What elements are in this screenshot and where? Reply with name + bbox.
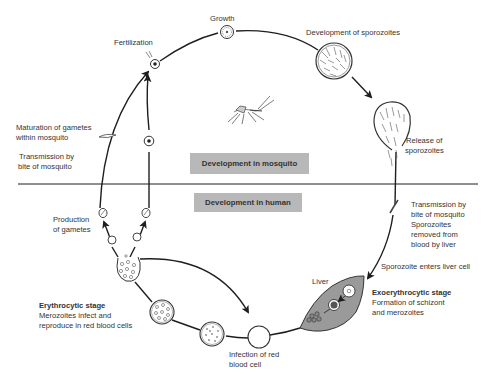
sporozoite-release-icon <box>374 102 410 166</box>
label-transmission-right-line1: Transmission by <box>411 200 466 209</box>
label-production-line2: of gametes <box>53 225 91 234</box>
label-ery-desc-line2: reproduce in red blood cells <box>39 321 132 330</box>
label-release-of-sporozoites-line2: sporozoites <box>405 146 444 155</box>
arrow-maturation-to-fertilization <box>100 72 148 208</box>
label-transmission-right-line5: blood by liver <box>411 240 456 249</box>
gamete-dot-icon <box>144 136 154 146</box>
arrow-gamete-left <box>104 222 110 238</box>
red-blood-cell-icon <box>248 326 270 348</box>
arrow-development-to-release <box>352 77 371 97</box>
ruptured-rbc-icon <box>117 255 140 281</box>
trophozoite-rbc-icon <box>200 322 224 346</box>
label-development-of-sporozoites: Development of sporozoites <box>306 28 400 37</box>
line-rbc-to-liver <box>270 328 300 335</box>
gamete-cell-right-icon <box>133 233 141 241</box>
gamete-cell-left-icon <box>108 236 116 244</box>
label-ery-desc-line1: Merozoites infect and <box>39 311 111 320</box>
label-transmission-right-line2: bite of mosquito <box>411 210 465 219</box>
gametocyte-left-icon <box>99 208 107 217</box>
label-erythrocytic-stage: Erythrocytic stage <box>39 301 105 310</box>
line-ery-mid <box>172 320 200 330</box>
line-gamete-right-lower <box>130 247 135 257</box>
label-sporozoite-enters-liver-cell: Sporozoite enters liver cell <box>381 262 470 271</box>
label-liver: Liver <box>312 277 328 286</box>
growth-oocyst-icon <box>221 26 234 39</box>
schizont-rbc-icon <box>150 300 174 324</box>
label-transmission-left-line2: bite of mosquito <box>18 162 72 171</box>
banner-development-in-human: Development in human <box>194 193 302 212</box>
label-production-line1: Production <box>53 215 89 224</box>
line-gamete-left-lower <box>112 247 118 257</box>
label-transmission-left-line1: Transmission by <box>19 152 74 161</box>
label-exo-desc-line2: and merozoites <box>372 308 424 317</box>
label-maturation-line1: Maturation of gametes <box>16 123 92 132</box>
line-ery-to-rbc <box>226 336 248 338</box>
fertilization-zygote-icon <box>146 51 160 69</box>
label-transmission-right-line4: removed from <box>411 230 458 239</box>
line-release-down <box>395 152 396 205</box>
gametocyte-right-icon <box>142 208 150 217</box>
liver-cell-icon <box>300 276 364 331</box>
label-transmission-right-line3: Sporozoites <box>411 220 451 229</box>
label-infection-line2: blood cell <box>229 360 261 369</box>
sporozoite-icon <box>390 200 398 213</box>
arrow-inner-to-fertilization <box>147 76 149 130</box>
label-exoerythrocytic-stage: Exoerythrocytic stage <box>372 288 451 297</box>
mosquito-icon <box>228 96 274 124</box>
label-growth: Growth <box>210 14 234 23</box>
label-release-of-sporozoites-line1: Release of <box>406 136 442 145</box>
sporozoite-oocyst-icon <box>316 43 352 79</box>
label-infection-line1: Infection of red <box>229 350 279 359</box>
label-maturation-line2: within mosquito <box>16 133 68 142</box>
label-exo-desc-line1: Formation of schizont <box>372 298 445 307</box>
line-ery-down <box>135 282 152 302</box>
maturation-gamete-icon <box>99 134 116 137</box>
arc-fertilization-to-growth <box>160 33 218 61</box>
label-fertilization: Fertilization <box>114 38 153 47</box>
banner-development-in-mosquito: Development in mosquito <box>190 153 309 174</box>
